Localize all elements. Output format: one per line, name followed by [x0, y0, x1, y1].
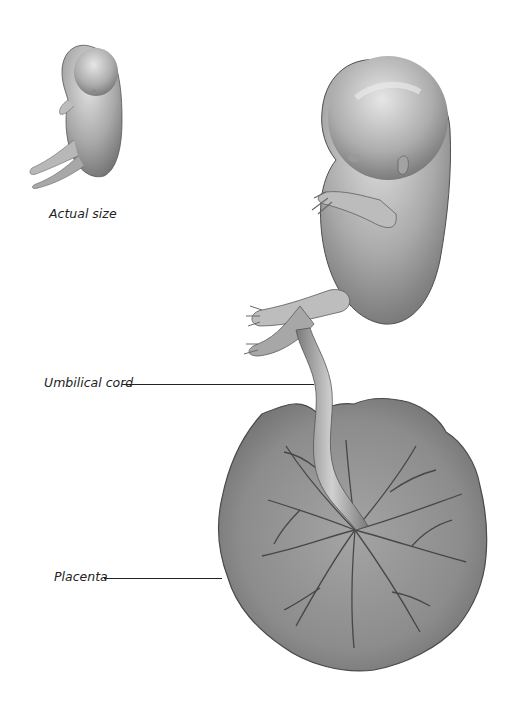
label-umbilical-cord: Umbilical cord: [44, 377, 133, 390]
label-actual-size: Actual size: [49, 208, 117, 221]
leader-line-umbilical-cord: [122, 384, 314, 385]
illustration: [0, 0, 514, 720]
label-placenta: Placenta: [54, 571, 108, 584]
embryo-enlarged: [244, 56, 451, 356]
leader-line-placenta: [104, 578, 222, 579]
placenta-illustration: [219, 399, 487, 671]
diagram-canvas: Actual size Umbilical cord Placenta: [0, 0, 514, 720]
embryo-actual-size: [30, 45, 122, 188]
